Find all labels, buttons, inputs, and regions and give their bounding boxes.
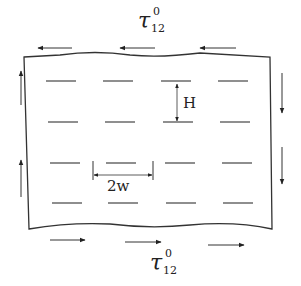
shear-plate-diagram [0,0,301,286]
top-shear-superscript: 0 [153,6,160,17]
shear-arrows [21,48,282,245]
bottom-shear-subscript: 12 [163,265,177,276]
top-shear-label: τ 0 12 [138,10,150,32]
top-shear-subscript: 12 [151,23,165,34]
crack-spacing-label: H [183,94,196,112]
crack-array [46,81,253,203]
bottom-shear-superscript: 0 [165,248,172,259]
bottom-shear-label: τ 0 12 [150,252,162,274]
bottom-shear-symbol: τ [150,250,162,275]
crack-length-label: 2w [107,177,129,195]
top-shear-symbol: τ [138,8,150,33]
